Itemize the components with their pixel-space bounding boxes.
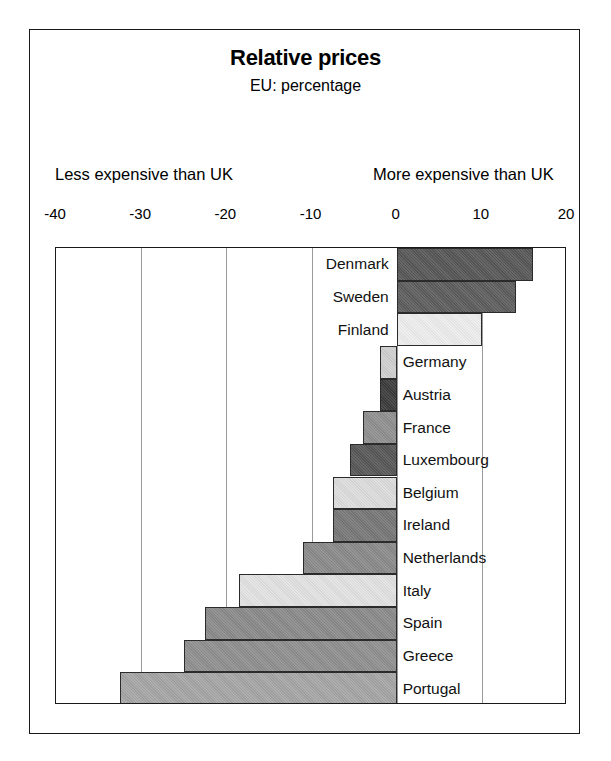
x-tick-label: 20 [546, 205, 586, 222]
bar-spain[interactable] [205, 607, 397, 640]
bar-belgium[interactable] [333, 477, 397, 510]
x-tick-label: 0 [376, 205, 416, 222]
chart-title: Relative prices [0, 45, 611, 71]
bar-row: Luxembourg [56, 444, 565, 477]
bar-row: Austria [56, 379, 565, 412]
bar-rows: DenmarkSwedenFinlandGermanyAustriaFrance… [56, 248, 565, 703]
bar-label-austria: Austria [403, 386, 451, 404]
bar-row: Sweden [56, 281, 565, 314]
bar-luxembourg[interactable] [350, 444, 397, 477]
bar-denmark[interactable] [397, 248, 533, 281]
bar-row: Netherlands [56, 542, 565, 575]
bar-row: Germany [56, 346, 565, 379]
bar-label-spain: Spain [403, 614, 443, 632]
bar-row: Portugal [56, 672, 565, 704]
bar-label-italy: Italy [403, 582, 431, 600]
right-annotation: More expensive than UK [373, 165, 554, 184]
bar-austria[interactable] [380, 379, 397, 412]
x-axis-ticks: -40-30-20-1001020 [0, 205, 611, 227]
bar-row: Ireland [56, 509, 565, 542]
bar-row: Belgium [56, 477, 565, 510]
bar-netherlands[interactable] [303, 542, 397, 575]
left-annotation: Less expensive than UK [55, 165, 233, 184]
bar-label-finland: Finland [338, 321, 389, 339]
bar-row: France [56, 411, 565, 444]
x-tick-label: -30 [120, 205, 160, 222]
bar-row: Denmark [56, 248, 565, 281]
bar-portugal[interactable] [120, 672, 397, 704]
bar-italy[interactable] [239, 574, 397, 607]
bar-ireland[interactable] [333, 509, 397, 542]
bar-label-luxembourg: Luxembourg [403, 451, 489, 469]
bar-row: Finland [56, 313, 565, 346]
bar-label-denmark: Denmark [326, 255, 389, 273]
x-tick-label: 10 [461, 205, 501, 222]
bar-label-germany: Germany [403, 353, 467, 371]
bar-row: Spain [56, 607, 565, 640]
x-tick-label: -10 [291, 205, 331, 222]
bar-greece[interactable] [184, 640, 397, 673]
bar-germany[interactable] [380, 346, 397, 379]
bar-finland[interactable] [397, 313, 482, 346]
bar-label-portugal: Portugal [403, 680, 461, 698]
bar-label-ireland: Ireland [403, 516, 450, 534]
bar-row: Italy [56, 574, 565, 607]
chart-subtitle: EU: percentage [0, 77, 611, 95]
bar-row: Greece [56, 640, 565, 673]
x-tick-label: -40 [35, 205, 75, 222]
bar-label-france: France [403, 419, 451, 437]
bar-label-belgium: Belgium [403, 484, 459, 502]
plot-area: DenmarkSwedenFinlandGermanyAustriaFrance… [55, 247, 566, 704]
bar-label-greece: Greece [403, 647, 454, 665]
chart-page: Relative prices EU: percentage Less expe… [0, 0, 611, 761]
bar-sweden[interactable] [397, 281, 516, 314]
bar-france[interactable] [363, 411, 397, 444]
bar-label-sweden: Sweden [333, 288, 389, 306]
x-tick-label: -20 [205, 205, 245, 222]
bar-label-netherlands: Netherlands [403, 549, 487, 567]
